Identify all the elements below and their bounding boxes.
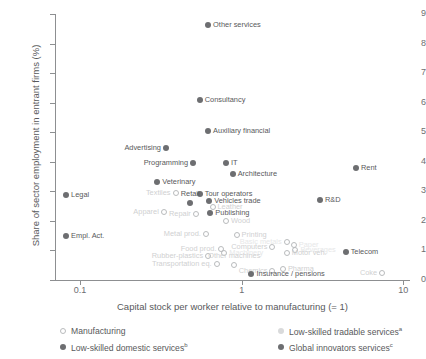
data-point[interactable] [223,160,229,166]
data-point[interactable] [173,190,179,196]
point-label: Rent [361,164,377,172]
data-point[interactable] [234,232,240,238]
legend-footnote-marker: b [184,342,187,348]
point-label: Telecom [351,248,379,256]
data-point[interactable] [284,239,290,245]
legend-footnote-marker: c [390,342,393,348]
data-point[interactable] [353,165,359,171]
data-point[interactable] [317,197,323,203]
point-label: Insurance / pensions [256,270,324,278]
data-point[interactable] [379,270,385,276]
legend-item-lowdom[interactable]: Low-skilled domestic servicesb [60,342,278,353]
data-point[interactable] [161,209,167,215]
point-label: IT [231,159,238,167]
legend-footnote-marker: a [399,326,402,332]
data-point[interactable] [190,160,196,166]
point-label: Textiles [146,189,171,197]
data-point[interactable] [205,22,211,28]
point-label: Apparel [133,208,158,216]
data-point[interactable] [63,192,69,198]
data-point[interactable] [284,250,290,256]
scatter-chart: 0123456789 0.1110 Share of sector employ… [0,0,426,359]
point-label: Auxiliary financial [213,127,270,135]
data-point[interactable] [223,218,229,224]
point-label: R&D [325,196,341,204]
data-point[interactable] [207,210,213,216]
point-label: Advertising [124,144,161,152]
data-point[interactable] [231,262,237,268]
data-point[interactable] [63,233,69,239]
point-label: Metal prod. [164,230,201,238]
legend-item-lowtrade[interactable]: Low-skilled tradable servicesa [278,326,420,337]
legend-marker-icon [278,344,284,350]
point-label: Motor veh. [292,249,327,257]
point-label: Architecture [238,170,277,178]
x-axis-line [55,280,410,281]
data-point[interactable] [163,145,169,151]
data-point[interactable] [205,128,211,134]
point-label: Retail [181,190,200,198]
point-label: Transportation eq. [152,260,212,268]
point-label: Coke [360,269,377,277]
point-label: Wood [231,217,250,225]
point-label: Repair [169,210,191,218]
y-axis-title: Share of sector employment in entrant fi… [30,21,41,271]
data-point[interactable] [203,231,209,237]
data-point[interactable] [343,249,349,255]
data-point[interactable] [230,171,236,177]
legend-label: Global innovators servicesc [289,342,393,353]
data-point[interactable] [248,271,254,277]
point-label: Consultancy [205,96,246,104]
x-tick-label: 10 [383,286,423,295]
chart-legend: ManufacturingLow-skilled tradable servic… [60,326,420,353]
x-tick-label: 0.1 [60,286,100,295]
y-tick-mark [50,280,55,281]
legend-item-manufacturing[interactable]: Manufacturing [60,326,278,337]
point-label: Other services [213,21,261,29]
legend-item-global[interactable]: Global innovators servicesc [278,342,420,353]
point-label: Veterinary [162,178,195,186]
legend-label: Low-skilled domestic servicesb [71,342,188,353]
data-point[interactable] [154,179,160,185]
data-point[interactable] [214,261,220,267]
x-axis-title: Capital stock per worker relative to man… [55,301,410,312]
point-label: Programming [144,159,188,167]
point-label: Other machines [208,252,260,260]
legend-marker-icon [278,328,284,334]
data-point[interactable] [193,211,199,217]
point-label: Empl. Act. [71,232,104,240]
data-point[interactable] [197,97,203,103]
data-point[interactable] [269,244,275,250]
legend-label: Manufacturing [71,326,125,336]
x-tick-label: 1 [222,286,262,295]
data-point[interactable] [187,200,193,206]
legend-marker-icon [60,344,66,350]
legend-marker-icon [60,328,66,334]
point-label: Legal [71,191,89,199]
plot-area: Other servicesConsultancyAuxiliary finan… [55,14,410,280]
legend-label: Low-skilled tradable servicesa [289,326,402,337]
